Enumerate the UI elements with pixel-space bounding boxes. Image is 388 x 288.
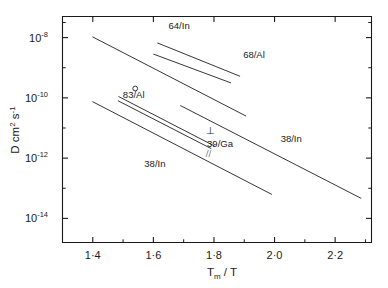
curve-labels: 64/In68/Al83/Al⊥//39/Ga38/In38/In xyxy=(123,20,302,168)
data-lines xyxy=(93,37,361,198)
curve-label-38-in-lower: 38/In xyxy=(144,158,165,169)
curve-label-39-ga-parallel: // xyxy=(206,148,212,159)
y-tick-label-1: 10-10 xyxy=(25,90,48,104)
y-tick-label-0: 10-8 xyxy=(29,30,48,44)
data-line-39-ga-perpendicular xyxy=(119,97,214,146)
curve-label-83-al: 83/Al xyxy=(123,89,145,100)
curve-label-64-in: 64/In xyxy=(169,20,190,31)
x-tick-label-1: 1·6 xyxy=(145,249,161,261)
y-tick-label-2: 10-12 xyxy=(25,150,48,164)
x-tick-label-3: 2·0 xyxy=(267,249,283,261)
x-tick-label-2: 1·8 xyxy=(206,249,222,261)
x-tick-label-4: 2·2 xyxy=(327,249,343,261)
curve-label-38-in-upper: 38/In xyxy=(281,133,302,144)
axis-titles: Tm / TD cm2 s-1 xyxy=(8,106,237,281)
axis-ticks xyxy=(63,17,372,243)
curve-label-39-ga-perpendicular: ⊥ xyxy=(206,125,215,136)
data-line-68-al xyxy=(154,54,231,83)
x-tick-label-0: 1·4 xyxy=(85,249,101,261)
x-tick-labels: 1·41·61·82·02·2 xyxy=(85,249,343,261)
figure-container: 64/In68/Al83/Al⊥//39/Ga38/In38/In 10-810… xyxy=(0,0,388,288)
y-axis-title: D cm2 s-1 xyxy=(8,106,21,154)
curve-label-68-al: 68/Al xyxy=(243,49,265,60)
diffusion-log-plot: 64/In68/Al83/Al⊥//39/Ga38/In38/In 10-810… xyxy=(0,0,388,288)
x-axis-title: Tm / T xyxy=(207,266,237,281)
axes-frame xyxy=(63,17,372,243)
curve-label-39-ga: 39/Ga xyxy=(207,138,234,149)
plot-frame xyxy=(63,17,372,243)
y-tick-label-3: 10-14 xyxy=(25,210,48,224)
data-line-39-ga-parallel xyxy=(118,101,211,149)
y-tick-labels: 10-810-1010-1210-14 xyxy=(25,30,48,225)
data-line-83-al xyxy=(93,37,246,116)
